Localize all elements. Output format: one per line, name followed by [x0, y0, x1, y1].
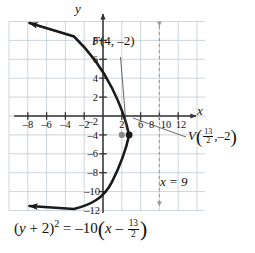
vertex-label: V(132,–2): [188, 128, 237, 147]
vertex-fraction: 132: [203, 128, 213, 145]
vertex-paren-open: (: [196, 128, 202, 147]
y-tick-label: 4: [93, 73, 99, 84]
focus-point: [119, 132, 125, 138]
y-axis-name: y: [75, 2, 81, 15]
y-tick-label: –10: [83, 186, 100, 197]
eq-rhs-var: x: [105, 220, 112, 236]
vertex-paren-close: ): [231, 128, 237, 147]
y-tick-label: –8: [87, 167, 99, 178]
y-tick-label: –2: [87, 116, 99, 127]
x-tick-label: 2: [119, 119, 124, 130]
directrix-label: x = 9: [160, 175, 188, 188]
eq-fraction: 132: [128, 219, 139, 239]
eq-power: 2: [54, 218, 59, 229]
y-tick-label: –6: [87, 148, 99, 159]
equation-label: (y + 2)2 = –10(x – 132): [14, 219, 147, 241]
eq-rhs-close: ): [140, 219, 147, 241]
x-tick-label: –8: [22, 119, 34, 130]
eq-equals: =: [63, 220, 71, 236]
x-tick-label: –6: [40, 119, 52, 130]
vertex-point: [126, 132, 133, 139]
eq-rhs-minus: –: [115, 220, 123, 236]
parabola-curve: [30, 135, 130, 209]
vertex-letter: V: [188, 128, 196, 143]
y-tick-label: –4: [87, 130, 99, 141]
eq-rhs-coef: –10: [75, 220, 98, 236]
vertex-second-coord: –2: [218, 128, 231, 143]
y-tick-label: –12: [83, 205, 100, 216]
focus-label: F(4, –2): [92, 34, 135, 47]
eq-lhs-plus: + 2: [29, 220, 49, 236]
focus-coords: (4, –2): [100, 33, 135, 48]
eq-rhs-open: (: [98, 219, 105, 241]
x-tick-label: –4: [59, 119, 71, 130]
eq-lhs-var: y: [19, 220, 26, 236]
x-axis-name: x: [197, 104, 203, 117]
focus-letter: F: [92, 33, 100, 48]
y-tick-label: 2: [93, 92, 98, 103]
x-tick-label: 12: [176, 119, 187, 130]
